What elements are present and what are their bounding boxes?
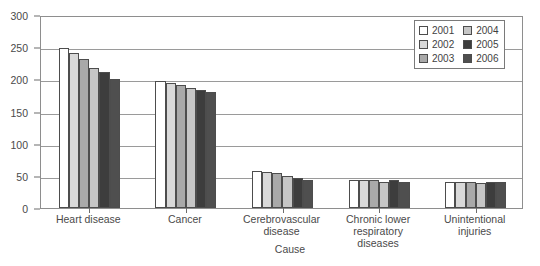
y-tick-label: 250 xyxy=(10,43,28,53)
bar xyxy=(59,48,69,208)
bar xyxy=(186,88,196,208)
y-tick-label: 100 xyxy=(10,140,28,150)
x-axis-category-label: Cerebrovascular disease xyxy=(236,213,327,237)
bar xyxy=(466,182,476,208)
bar xyxy=(155,81,165,208)
bar xyxy=(262,172,272,208)
bar xyxy=(99,72,109,208)
bar xyxy=(272,173,282,208)
bar xyxy=(349,180,359,208)
legend-item: 2005 xyxy=(463,38,498,51)
bar xyxy=(369,180,379,208)
bar-group xyxy=(252,17,313,208)
x-axis-title: Cause xyxy=(0,243,540,255)
bar xyxy=(79,59,89,208)
legend-label: 2003 xyxy=(432,54,454,64)
x-axis-category-label: Heart disease xyxy=(43,213,134,225)
bar xyxy=(496,182,506,208)
bar-group xyxy=(59,17,120,208)
legend-item: 2004 xyxy=(463,24,498,37)
bar xyxy=(379,182,389,208)
bar xyxy=(476,183,486,208)
legend: 200120022003200420052006 xyxy=(414,20,505,69)
legend-label: 2006 xyxy=(476,54,498,64)
bar xyxy=(282,176,292,208)
x-axis-title-text: Cause xyxy=(275,243,305,255)
bar xyxy=(389,180,399,208)
bar xyxy=(293,178,303,208)
legend-swatch xyxy=(463,26,472,35)
bar xyxy=(445,182,455,208)
bar xyxy=(359,180,369,208)
bar-chart: 050100150200250300 Heart diseaseCancerCe… xyxy=(0,0,540,266)
bar-group xyxy=(349,17,410,208)
legend-item: 2001 xyxy=(419,24,454,37)
y-tick-label: 150 xyxy=(10,108,28,118)
legend-swatch xyxy=(419,54,428,63)
legend-item: 2003 xyxy=(419,52,454,65)
bar xyxy=(166,83,176,208)
legend-label: 2001 xyxy=(432,26,454,36)
legend-label: 2005 xyxy=(476,40,498,50)
bar xyxy=(110,79,120,208)
bar xyxy=(69,53,79,208)
y-tick-label: 200 xyxy=(10,75,28,85)
legend-column: 200120022003 xyxy=(419,24,454,65)
legend-swatch xyxy=(419,26,428,35)
legend-swatch xyxy=(463,40,472,49)
x-axis-category-label: Unintentional injuries xyxy=(429,213,520,237)
y-tick-label: 0 xyxy=(22,204,28,214)
bar xyxy=(303,180,313,208)
legend-swatch xyxy=(419,40,428,49)
x-axis-category-labels: Heart diseaseCancerCerebrovascular disea… xyxy=(40,213,523,247)
bar xyxy=(196,90,206,208)
legend-swatch xyxy=(463,54,472,63)
legend-column: 200420052006 xyxy=(463,24,498,65)
bar xyxy=(252,171,262,208)
x-axis-category-label: Cancer xyxy=(140,213,231,225)
bar xyxy=(486,182,496,208)
bar xyxy=(455,182,465,208)
legend-label: 2002 xyxy=(432,40,454,50)
bar-group xyxy=(155,17,216,208)
bar xyxy=(399,182,409,208)
y-tick-label: 50 xyxy=(16,172,28,182)
legend-item: 2006 xyxy=(463,52,498,65)
y-tick-label: 300 xyxy=(10,11,28,21)
bar xyxy=(176,85,186,208)
bar xyxy=(89,68,99,208)
legend-label: 2004 xyxy=(476,26,498,36)
bar xyxy=(206,92,216,208)
legend-item: 2002 xyxy=(419,38,454,51)
y-axis: 050100150200250300 xyxy=(0,16,34,209)
